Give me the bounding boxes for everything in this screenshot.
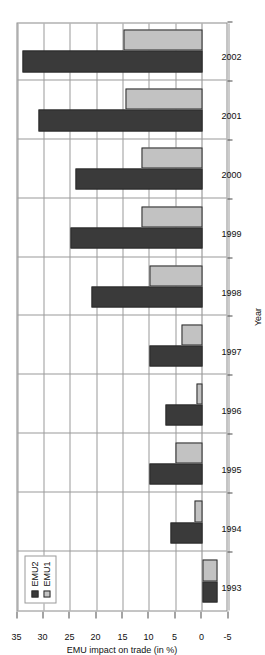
- category-axis-tick-label: 1996: [218, 405, 244, 415]
- value-axis-tick: [95, 611, 96, 618]
- category-axis-title: Year: [252, 22, 262, 611]
- category-axis-tick: [227, 492, 232, 493]
- category-axis-tick-label: 1998: [218, 287, 244, 297]
- gridline: [17, 23, 18, 610]
- category-separator: [17, 491, 226, 492]
- legend-swatch-icon: [43, 590, 50, 597]
- plot-area: [16, 22, 227, 611]
- category-axis-tick: [227, 21, 232, 22]
- category-axis-tick: [227, 433, 232, 434]
- category-axis-tick-label: 2001: [218, 110, 244, 120]
- category-axis-tick-label: 2000: [218, 169, 244, 179]
- category-separator: [17, 432, 226, 433]
- value-axis-tick-label: 35: [0, 631, 33, 643]
- category-separator: [17, 373, 226, 374]
- bar: [170, 522, 202, 543]
- category-separator: [17, 138, 226, 139]
- category-axis-tick-label: 1994: [218, 523, 244, 533]
- category-axis-tick-label: 1993: [218, 582, 244, 592]
- category-separator: [17, 315, 226, 316]
- value-axis-tick: [174, 611, 175, 618]
- category-axis-tick: [227, 198, 232, 199]
- bar: [181, 324, 202, 345]
- category-separator: [17, 197, 226, 198]
- bar: [75, 168, 202, 189]
- category-axis-tick: [227, 551, 232, 552]
- bar: [196, 383, 201, 404]
- category-axis-tick-label: 1995: [218, 464, 244, 474]
- category-axis-tick-label: 1997: [218, 346, 244, 356]
- value-axis-tick: [121, 611, 122, 618]
- bar: [70, 227, 202, 248]
- bar: [125, 88, 201, 109]
- category-separator: [17, 550, 226, 551]
- legend-label: EMU1: [42, 561, 51, 586]
- legend-item: EMU2: [28, 561, 40, 597]
- bar: [141, 147, 202, 168]
- category-axis-tick: [227, 257, 232, 258]
- bar: [91, 286, 202, 307]
- legend-swatch-icon: [31, 590, 38, 597]
- bar: [149, 463, 202, 484]
- category-axis-tick: [227, 139, 232, 140]
- bar: [165, 404, 202, 425]
- bar: [202, 581, 218, 602]
- bar: [149, 265, 202, 286]
- bar: [22, 50, 201, 71]
- category-axis-tick: [227, 374, 232, 375]
- bar: [175, 442, 201, 463]
- value-axis-tick: [16, 611, 17, 618]
- value-axis-tick: [227, 611, 228, 618]
- category-separator: [17, 256, 226, 257]
- value-axis-tick: [147, 611, 148, 618]
- bar: [149, 345, 202, 366]
- bar: [141, 206, 202, 227]
- category-separator: [17, 79, 226, 80]
- value-axis-tick: [200, 611, 201, 618]
- category-axis-tick: [227, 316, 232, 317]
- chart-legend: EMU2EMU1: [24, 555, 56, 603]
- category-axis-tick-label: 1999: [218, 228, 244, 238]
- value-axis-title: EMU impact on trade (in %): [16, 643, 227, 655]
- bar: [194, 500, 202, 521]
- bar: [202, 559, 218, 580]
- legend-item: EMU1: [40, 561, 52, 597]
- bar: [123, 29, 202, 50]
- value-axis-tick: [68, 611, 69, 618]
- legend-label: EMU2: [30, 561, 39, 586]
- category-axis-tick-label: 2002: [218, 51, 244, 61]
- value-axis-tick: [42, 611, 43, 618]
- category-axis-tick: [227, 80, 232, 81]
- bar: [38, 109, 202, 130]
